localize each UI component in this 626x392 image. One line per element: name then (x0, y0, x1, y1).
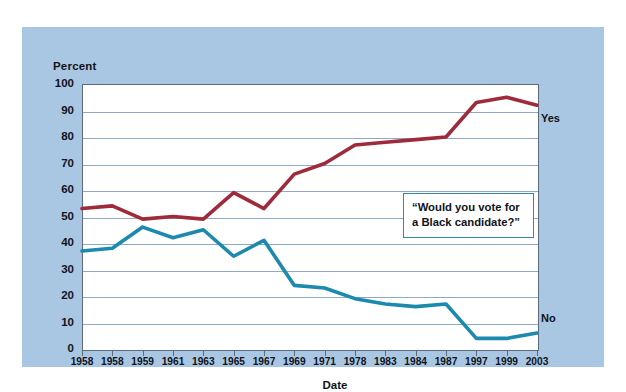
x-tick-label: 1958 (71, 356, 94, 367)
series-label-no: No (541, 312, 556, 324)
x-tick-label: 2003 (526, 356, 549, 367)
y-tick-label: 60 (38, 183, 74, 195)
x-tick-label: 1963 (192, 356, 215, 367)
y-tick-label: 70 (38, 157, 74, 169)
y-tick-label: 80 (38, 130, 74, 142)
x-tick-label: 1997 (465, 356, 488, 367)
chart-figure: Percent 1009080706050403020100 195819581… (0, 0, 626, 392)
y-tick-label: 20 (38, 289, 74, 301)
series-line-no (82, 227, 537, 338)
y-tick-label: 40 (38, 236, 74, 248)
x-tick-label: 1969 (283, 356, 306, 367)
figure-panel: Percent 1009080706050403020100 195819581… (22, 27, 604, 367)
y-tick-label: 50 (38, 210, 74, 222)
x-axis-title: Date (22, 379, 626, 391)
y-axis-title: Percent (53, 60, 97, 72)
x-tick-label: 1983 (374, 356, 397, 367)
question-callout: “Would you vote for a Black candidate?” (403, 193, 534, 238)
x-tick-label: 1965 (222, 356, 245, 367)
callout-line-2: a Black candidate?” (412, 215, 525, 230)
x-tick-label: 1999 (495, 356, 518, 367)
y-tick-label: 10 (38, 316, 74, 328)
x-tick-label: 1961 (162, 356, 185, 367)
y-tick-label: 30 (38, 263, 74, 275)
x-tick-label: 1959 (131, 356, 154, 367)
callout-line-1: “Would you vote for (412, 200, 525, 215)
y-tick-label: 90 (38, 104, 74, 116)
x-tick-label: 1958 (101, 356, 124, 367)
x-tick-label: 1987 (435, 356, 458, 367)
x-tick-label: 1971 (313, 356, 336, 367)
x-tick-label: 1984 (404, 356, 427, 367)
x-tick-label: 1978 (344, 356, 367, 367)
x-tick-label: 1967 (253, 356, 276, 367)
series-label-yes: Yes (541, 112, 560, 124)
y-tick-label: 0 (38, 342, 74, 354)
y-tick-label: 100 (38, 77, 74, 89)
